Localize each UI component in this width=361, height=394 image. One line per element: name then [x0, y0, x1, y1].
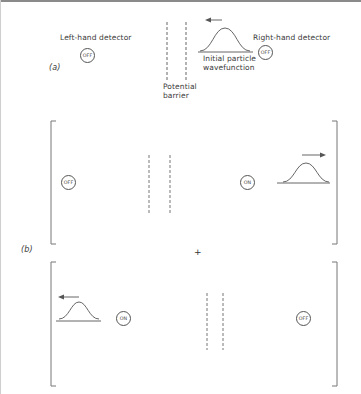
- term1-right-detector-on: ON: [240, 175, 255, 190]
- gaussian-wavepacket-icon: [283, 163, 329, 182]
- panel-b-label: (b): [21, 245, 33, 254]
- left-bracket: [51, 262, 56, 386]
- term2-left-detector-on: ON: [116, 311, 131, 326]
- left-detector-off: OFF: [80, 48, 95, 63]
- right-detector-off: OFF: [258, 45, 273, 60]
- gaussian-wavepacket-icon: [200, 28, 250, 51]
- term1-wavefunction: [277, 153, 330, 184]
- right-detector-title: Right-hand detector: [253, 33, 330, 42]
- gaussian-wavepacket-icon: [59, 302, 99, 319]
- term1-barrier: [149, 155, 170, 215]
- panel-a-wavefunction: [198, 18, 253, 53]
- right-bracket: [332, 121, 337, 244]
- arrow-right-icon: [320, 153, 326, 158]
- right-bracket: [332, 262, 337, 386]
- arrow-left-icon: [205, 18, 211, 23]
- term2-brackets: [51, 262, 337, 386]
- term2-barrier: [207, 293, 223, 350]
- wavefunction-label-line2: wavefunction: [203, 63, 255, 72]
- term2-right-detector-off: OFF: [296, 311, 311, 326]
- left-detector-title: Left-hand detector: [60, 33, 132, 42]
- left-bracket: [51, 121, 56, 244]
- panel-a-label: (a): [49, 63, 60, 72]
- barrier-label-line1: Potential: [163, 82, 197, 91]
- diagram-canvas: [0, 0, 361, 394]
- term2-wavefunction: [56, 295, 101, 322]
- panel-a-barrier: [167, 22, 186, 80]
- arrow-left-icon: [58, 295, 64, 300]
- barrier-label-line2: barrier: [163, 91, 189, 100]
- wavefunction-label-line1: Initial particle: [203, 54, 256, 63]
- term1-left-detector-off: OFF: [61, 175, 76, 190]
- superposition-plus: +: [194, 248, 202, 257]
- term1-brackets: [51, 121, 337, 244]
